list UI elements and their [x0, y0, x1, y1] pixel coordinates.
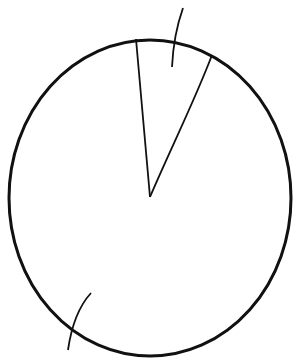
- slice-small-edge-left: [136, 39, 150, 197]
- leader-line-small-slice: [172, 8, 183, 67]
- pie-outline: [9, 40, 291, 356]
- pie-chart: [0, 0, 306, 361]
- leader-line-large-slice: [68, 293, 91, 350]
- slice-small-edge-right: [150, 55, 212, 197]
